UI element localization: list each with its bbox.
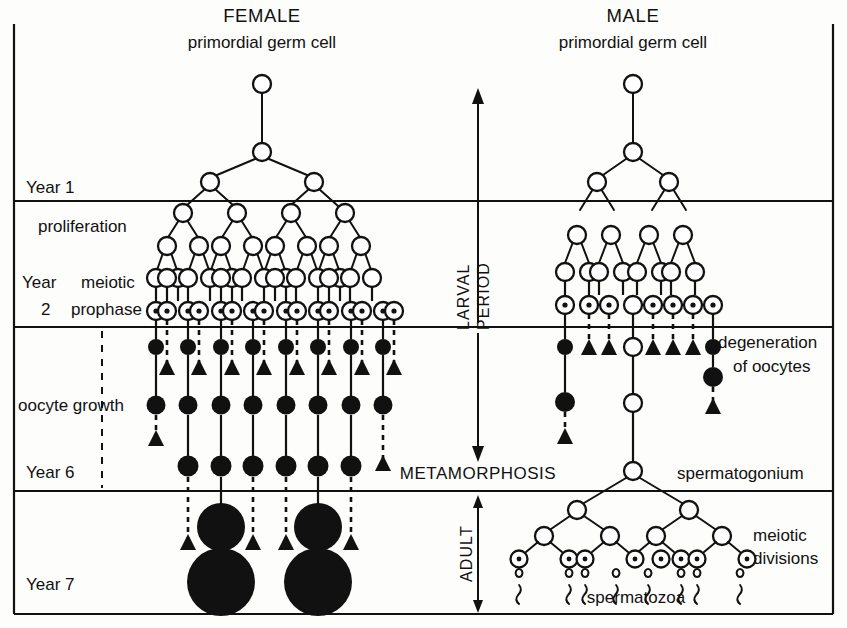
female-cell-g2-1 (201, 173, 219, 191)
male-cell-surviving (624, 338, 642, 356)
spermatozoon-icon (694, 569, 701, 604)
meiotic-divisions-label-b: divisions (753, 549, 818, 568)
year6-label: Year 6 (26, 463, 75, 482)
degeneration-triangle-icon (245, 534, 261, 550)
spermatozoon-icon (516, 569, 523, 604)
female-branch-g1-r (269, 159, 307, 175)
female-g5-to-prophase-stems (156, 287, 372, 301)
larval-arrow-up-icon (472, 88, 484, 104)
year1-label: Year 1 (26, 178, 75, 197)
year2-label-a: Year (22, 273, 57, 292)
larval-period-label-a: LARVAL (455, 264, 472, 331)
meiotic-divisions-label-a: meiotic (753, 526, 807, 545)
female-branch-g2a-r (215, 189, 234, 206)
adult-label: ADULT (458, 525, 475, 582)
female-heading: FEMALE (223, 5, 301, 26)
spermatozoon-icon (566, 569, 573, 604)
spermatogonium-label: spermatogonium (677, 464, 804, 483)
oocyte-growth-label: oocyte growth (18, 396, 124, 415)
diagram-canvas: FEMALE primordial germ cell MALE primord… (0, 0, 847, 628)
degeneration-triangle-icon (321, 359, 337, 375)
male-spermatid-cells (511, 551, 756, 568)
male-cell-spermatogonium-precursor (624, 296, 642, 314)
degeneration-triangle-icon (343, 534, 359, 550)
male-generation-4-cells (556, 263, 704, 281)
degeneration-triangle-icon (581, 339, 597, 355)
degeneration-triangle-icon (375, 455, 391, 471)
degeneration-triangle-icon (278, 534, 294, 550)
male-meiotic-divisions-tree (511, 478, 756, 604)
female-cell-g1 (253, 143, 271, 161)
larval-period-label-b: PERIOD (475, 262, 492, 330)
female-cell-g3-1 (174, 204, 192, 222)
spermatozoa-label: spermatozoa (587, 588, 686, 607)
female-cell-primordial (253, 75, 271, 93)
female-subheading: primordial germ cell (188, 33, 336, 52)
female-mature-oocyte (187, 548, 255, 616)
female-generation-4-branches (157, 253, 371, 270)
male-left-degeneration-chain (555, 355, 575, 444)
male-right-degeneration-chain (703, 355, 723, 414)
adult-arrow-up-icon (473, 495, 483, 508)
female-lineage-tree (147, 75, 404, 616)
male-spermatogonium-chain (624, 356, 642, 480)
male-cell-g2-1 (588, 173, 606, 191)
degeneration-triangle-icon (180, 534, 196, 550)
degeneration-triangle-icon (191, 359, 207, 375)
male-cell-primordial (624, 75, 642, 93)
female-generation-4-cells (158, 237, 370, 255)
female-cell-g3-4 (336, 204, 354, 222)
germ-cell-development-figure: FEMALE primordial germ cell MALE primord… (0, 0, 847, 628)
male-g4-stems (565, 281, 695, 295)
metamorphosis-arrow-down-icon (472, 446, 484, 462)
degeneration-triangle-icon (601, 339, 617, 355)
male-meiotic-prophase-cells (556, 296, 722, 314)
degeneration-triangle-icon (665, 339, 681, 355)
male-cell-g2-2 (660, 173, 678, 191)
male-subheading: primordial germ cell (559, 33, 707, 52)
female-growing-oocyte (294, 503, 342, 551)
female-branch-g2a-l (186, 189, 205, 206)
degeneration-triangle-icon (256, 359, 272, 375)
degeneration-label-a: degeneration (718, 333, 817, 352)
year7-label: Year 7 (26, 575, 75, 594)
degeneration-triangle-icon (224, 359, 240, 375)
degeneration-triangle-icon (557, 428, 573, 444)
degeneration-triangle-icon (386, 359, 402, 375)
female-young-oocytes-row (148, 320, 402, 375)
male-heading: MALE (607, 5, 660, 26)
female-meiotic-prophase-cells (147, 302, 403, 320)
female-cell-g3-2 (228, 204, 246, 222)
female-year7-mature-oocytes (180, 477, 359, 616)
degeneration-label-b: of oocytes (733, 357, 811, 376)
male-cell-g1 (624, 143, 642, 161)
female-year6-oocytes-row (178, 415, 362, 477)
timeline-left-labels: Year 1 proliferation Year 2 meiotic prop… (18, 178, 142, 594)
metamorphosis-label: METAMORPHOSIS (400, 464, 556, 483)
degeneration-triangle-icon (159, 359, 175, 375)
adult-arrow-down-icon (473, 600, 483, 613)
spermatozoon-icon (737, 569, 744, 604)
female-mature-oocyte (284, 548, 352, 616)
male-degeneration-row (557, 314, 721, 356)
center-period-axis: LARVAL PERIOD METAMORPHOSIS ADULT (400, 88, 556, 613)
female-generation-5-cells (147, 269, 381, 287)
degeneration-triangle-icon (645, 339, 661, 355)
year2-label-b: 2 (41, 300, 50, 319)
female-branch-g2b-r (319, 189, 338, 206)
degeneration-triangle-icon (289, 359, 305, 375)
female-growing-oocyte (197, 503, 245, 551)
female-cell-g2-2 (305, 173, 323, 191)
degeneration-triangle-icon (148, 430, 164, 446)
female-branch-g1-l (217, 159, 255, 175)
female-column-header: FEMALE primordial germ cell (188, 5, 336, 52)
female-cell-g3-3 (282, 204, 300, 222)
proliferation-label: proliferation (38, 217, 127, 236)
degeneration-triangle-icon (354, 359, 370, 375)
male-cell-intermediate (624, 394, 642, 412)
meiotic-prophase-label-b: prophase (71, 300, 142, 319)
meiotic-prophase-label-a: meiotic (81, 273, 135, 292)
degeneration-triangle-icon (685, 339, 701, 355)
degeneration-triangle-icon (705, 398, 721, 414)
male-column-header: MALE primordial germ cell (559, 5, 707, 52)
